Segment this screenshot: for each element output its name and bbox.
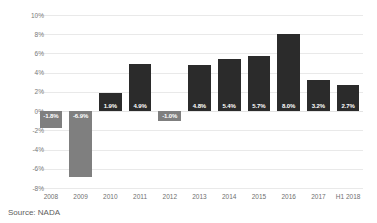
plot-area: 10%8%6%4%2%0%-2%-4%-6%-8% -1.8%-6.9%1.9%… [36, 15, 363, 188]
source-note: Source: NADA [8, 207, 60, 218]
x-axis-tick-label: H1 2018 [333, 192, 363, 201]
bar-slot: 8.0% [274, 15, 304, 188]
x-axis-tick-label: 2014 [214, 192, 244, 201]
bar-value-label: 2.7% [335, 103, 361, 110]
bar[interactable] [277, 34, 300, 111]
bar-value-label: -1.8% [38, 113, 64, 120]
bar-value-label: -6.9% [68, 113, 94, 120]
bar-slot: -6.9% [66, 15, 96, 188]
bar-value-label: 8.0% [276, 103, 302, 110]
bar-slot: 2.7% [333, 15, 363, 188]
x-axis-tick-label: 2016 [274, 192, 304, 201]
x-axis-tick-label: 2012 [155, 192, 185, 201]
bar-slot: 4.9% [125, 15, 155, 188]
bar-slot: 3.2% [304, 15, 334, 188]
bar-value-label: 3.2% [305, 103, 331, 110]
bar-slot: -1.8% [36, 15, 66, 188]
x-axis-tick-label: 2013 [185, 192, 215, 201]
x-axis-tick-label: 2008 [36, 192, 66, 201]
x-axis-tick-label: 2010 [95, 192, 125, 201]
bar-series: -1.8%-6.9%1.9%4.9%-1.0%4.8%5.4%5.7%8.0%3… [36, 15, 363, 188]
bar-slot: 5.7% [244, 15, 274, 188]
bar-value-label: 1.9% [97, 103, 123, 110]
bar-value-label: 4.8% [186, 103, 212, 110]
x-axis-tick-label: 2015 [244, 192, 274, 201]
bar-value-label: 5.4% [216, 103, 242, 110]
gridline [36, 188, 363, 189]
x-axis-tick-labels: 2008200920102011201220132014201520162017… [36, 192, 363, 204]
x-axis-tick-label: 2011 [125, 192, 155, 201]
bar-slot: -1.0% [155, 15, 185, 188]
bar-slot: 4.8% [185, 15, 215, 188]
chart-container: 10%8%6%4%2%0%-2%-4%-6%-8% -1.8%-6.9%1.9%… [0, 0, 377, 223]
bar-slot: 1.9% [95, 15, 125, 188]
bar-value-label: 5.7% [246, 103, 272, 110]
x-axis-tick-label: 2017 [304, 192, 334, 201]
bar[interactable] [69, 111, 92, 177]
x-axis-tick-label: 2009 [66, 192, 96, 201]
bar-value-label: 4.9% [127, 103, 153, 110]
bar-slot: 5.4% [214, 15, 244, 188]
bar-value-label: -1.0% [157, 113, 183, 120]
